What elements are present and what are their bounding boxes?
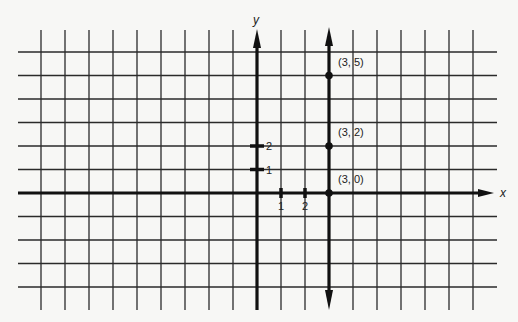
vertical-line-x-3 (325, 27, 333, 310)
vertical-line-arrowhead-top (325, 27, 333, 46)
y-tick-label: 1 (266, 164, 272, 176)
y-tick-label: 2 (266, 140, 272, 152)
point-label: (3, 2) (338, 126, 364, 138)
point-label: (3, 0) (338, 173, 364, 185)
y-axis-arrowhead (253, 29, 261, 48)
x-axis-arrowhead (478, 189, 494, 197)
coordinate-plane: x y 1212 (3, 5)(3, 2)(3, 0) (0, 0, 518, 322)
x-tick-label: 2 (302, 200, 308, 212)
data-point (325, 72, 333, 80)
axes: x y (18, 13, 507, 310)
y-axis-label: y (252, 13, 260, 27)
x-axis-label: x (499, 186, 507, 200)
data-point (325, 189, 333, 197)
x-tick-label: 1 (278, 200, 284, 212)
points: (3, 5)(3, 2)(3, 0) (325, 56, 363, 197)
ticks: 1212 (250, 140, 308, 212)
data-point (325, 142, 333, 150)
vertical-line-arrowhead-bottom (325, 290, 333, 310)
point-label: (3, 5) (338, 56, 364, 68)
